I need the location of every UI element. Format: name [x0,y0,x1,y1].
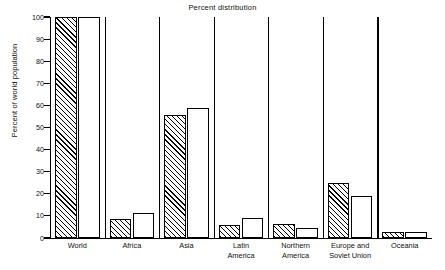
y-axis-tick-label: 30 [18,167,44,176]
y-axis-tick-label: 100 [18,13,44,22]
bar-northern-america-white [296,228,318,238]
y-axis-tick-label: 90 [18,35,44,44]
bar-europe-and-soviet-union-hatched [328,183,350,238]
group-separator [377,17,378,238]
x-axis-label-line: Soviet Union [310,251,390,261]
bar-oceania-hatched [382,232,404,238]
chart-figure: Percent distribution Percent of world po… [0,0,445,270]
group-separator [214,17,215,238]
bar-series-container [50,17,432,238]
bar-oceania-white [405,232,427,238]
group-separator [105,17,106,238]
y-axis-tick-label: 70 [18,79,44,88]
x-axis-label-oceania: Oceania [365,241,445,251]
group-separator [323,17,324,238]
bar-africa-hatched [110,219,132,238]
bar-latin-america-white [242,218,264,238]
y-axis-tick-label: 80 [18,57,44,66]
y-axis-tick-label: 50 [18,123,44,132]
x-axis-label-line: Oceania [365,241,445,251]
bar-asia-hatched [164,115,186,238]
bar-world-hatched [55,17,77,238]
group-separator [268,17,269,238]
y-axis-tick-label: 60 [18,101,44,110]
chart-title: Percent distribution [0,3,445,12]
bar-asia-white [187,108,209,238]
group-separator [159,17,160,238]
bar-world-white [78,17,100,238]
bar-northern-america-hatched [273,224,295,238]
bar-latin-america-hatched [219,225,241,238]
y-axis-tick-label: 20 [18,189,44,198]
bar-europe-and-soviet-union-white [351,196,373,238]
y-axis-tick-label: 40 [18,145,44,154]
bar-africa-white [133,213,155,238]
y-axis-tick-label: 10 [18,211,44,220]
